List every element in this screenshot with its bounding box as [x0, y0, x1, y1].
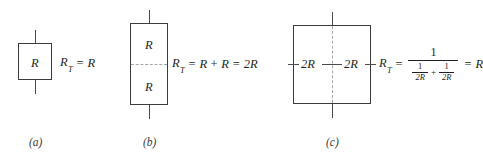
- panel-b-equation: RT = R + R = 2R: [172, 57, 258, 72]
- panel-a-caption: (a): [29, 137, 42, 149]
- panel-c-mid-left-stub: [322, 64, 332, 65]
- panel-c-eq-denominator: 1 2R + 1 2R: [408, 62, 458, 82]
- panel-a-eq-subscript: T: [68, 64, 73, 74]
- panel-b-resistor-label-top: R: [145, 39, 153, 52]
- panel-c-eq-numerator: 1: [427, 46, 439, 58]
- panel-b-eq-equals2: =: [229, 58, 244, 71]
- panel-c-top-lead: [332, 12, 333, 25]
- panel-c-resistor-label-right: 2R: [342, 58, 360, 71]
- panel-c-resistor-label-left: 2R: [299, 58, 317, 71]
- panel-a-eq-equals: =: [72, 57, 87, 70]
- panel-b-caption: (b): [143, 137, 156, 149]
- panel-c-eq-denom2-num: 1: [442, 62, 452, 71]
- panel-c-mid-right-stub: [332, 64, 342, 65]
- panel-a-eq-rhs: R: [87, 57, 95, 70]
- panel-b-eq-lhs: RT: [172, 57, 184, 72]
- panel-b-eq-result: 2R: [244, 58, 258, 71]
- panel-c-eq-denom1-den: 2R: [412, 73, 427, 82]
- panel-c-eq-denom2-den: 2R: [439, 73, 454, 82]
- panel-c-equation: RT = 1 1 2R + 1 2R: [379, 50, 483, 78]
- panel-b-series-divider: [131, 64, 167, 65]
- panel-b-eq-equals: =: [184, 58, 199, 71]
- panel-a-resistor-label: R: [31, 57, 39, 70]
- panel-c-eq-equals: =: [391, 58, 406, 71]
- panel-b-bottom-lead: [149, 105, 150, 119]
- panel-c-eq-result: R: [475, 58, 483, 71]
- panel-c-caption: (c): [326, 137, 339, 149]
- panel-b-resistor-label-bottom: R: [145, 81, 153, 94]
- panel-c-eq-fraction-bar: [408, 60, 458, 61]
- panel-c-eq-denom-plus: +: [429, 68, 438, 77]
- panel-a-bottom-lead: [35, 80, 36, 94]
- panel-a-equation: RT = R: [60, 56, 95, 71]
- panel-c-eq-main-fraction: 1 1 2R + 1 2R: [408, 46, 458, 82]
- panel-c-eq-equals2: =: [460, 58, 475, 71]
- panel-b-eq-term2: R: [221, 58, 229, 71]
- panel-a-eq-lhs: RT: [60, 56, 72, 71]
- panel-c-right-terminal-stub: [365, 64, 376, 65]
- panel-c-eq-subscript: T: [387, 65, 392, 75]
- panel-b-eq-subscript: T: [180, 65, 185, 75]
- panel-c-left-terminal-stub: [288, 64, 299, 65]
- panel-c-eq-denom-fraction-1: 1 2R: [412, 62, 427, 82]
- panel-b-eq-term1: R: [199, 58, 207, 71]
- panel-c-bottom-lead: [332, 104, 333, 118]
- panel-b-top-lead: [149, 10, 150, 23]
- panel-a-top-lead: [35, 30, 36, 43]
- panel-c-eq-lhs: RT: [379, 57, 391, 72]
- panel-c-eq-denom1-num: 1: [415, 62, 425, 71]
- panel-c-eq-denom-fraction-2: 1 2R: [439, 62, 454, 82]
- panel-b-eq-plus: +: [207, 58, 221, 71]
